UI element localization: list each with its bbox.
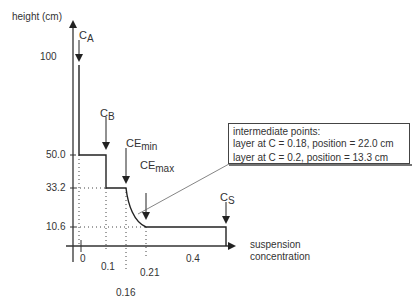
- x-axis-label-line2: concentration: [250, 252, 310, 262]
- x-tick-0-21: 0.21: [140, 268, 159, 278]
- marker-cb: CB: [100, 108, 115, 119]
- x-tick-0-4: 0.4: [186, 254, 200, 264]
- marker-cemax: CEmax: [140, 160, 174, 171]
- callout-title: intermediate points:: [233, 126, 405, 138]
- callout-line2: layer at C = 0.2, position = 13.3 cm: [233, 152, 405, 164]
- y-axis-label: height (cm): [12, 12, 62, 22]
- y-tick-50: 50.0: [46, 150, 65, 160]
- marker-cemin: CEmin: [126, 138, 157, 149]
- y-tick-10: 10.6: [46, 222, 65, 232]
- y-tick-100: 100: [40, 52, 57, 62]
- marker-cs: CS: [220, 192, 235, 203]
- callout-box: intermediate points: layer at C = 0.18, …: [228, 123, 410, 164]
- guide-lines: [76, 155, 146, 270]
- concentration-profile: [79, 65, 226, 246]
- y-tick-33: 33.2: [46, 183, 65, 193]
- marker-ca: CA: [79, 30, 94, 41]
- x-tick-0-1: 0.1: [101, 262, 115, 272]
- x-tick-0: 0: [80, 254, 86, 264]
- callout-line1: layer at C = 0.18, position = 22.0 cm: [233, 138, 405, 150]
- callout-leader: [138, 164, 229, 214]
- x-axis-label-line1: suspension: [250, 240, 301, 250]
- x-tick-0-16: 0.16: [116, 288, 135, 298]
